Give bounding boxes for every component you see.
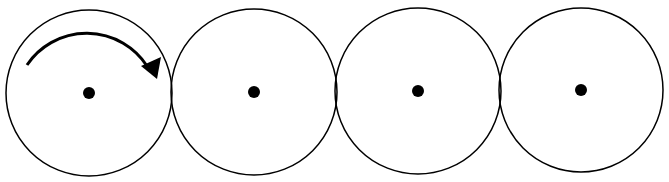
circle-3 [335,8,501,174]
center-dot-icon [575,84,587,96]
center-dot-icon [83,87,95,99]
clockwise-rotation-arrow [27,33,147,66]
circle-1 [6,10,172,176]
center-dot-icon [412,85,424,97]
center-dot-icon [248,86,260,98]
circles-group [6,8,663,176]
circle-2 [171,9,337,175]
circle-4 [499,8,663,172]
tangent-circles-diagram [0,0,669,182]
